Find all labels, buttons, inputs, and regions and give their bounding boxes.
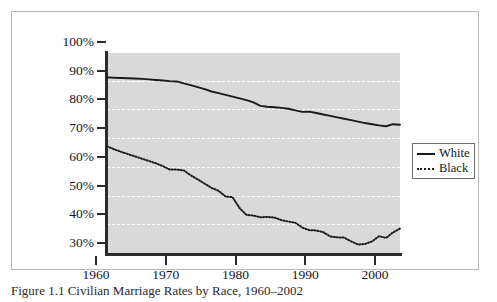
series-line-white [107,77,400,126]
legend-item-black: Black [417,161,468,176]
y-axis-tick [97,156,106,158]
y-axis-tick [97,213,106,215]
y-axis-tick-label: 50% [48,179,94,193]
x-axis-tick [374,256,376,265]
figure-frame: 100%90%80%70%60%50%40%30% 19601970198019… [11,11,479,270]
y-axis-tick [97,70,106,72]
y-axis-tick-label: 70% [48,121,94,135]
y-axis-tick [97,41,106,43]
x-axis-tick [165,256,167,265]
series-line-black [107,146,400,244]
series-layer [107,53,400,254]
x-axis-tick [304,256,306,265]
x-axis-tick [95,256,97,265]
y-axis-tick-label: 60% [48,150,94,164]
dotted-line-swatch-icon [417,164,435,174]
y-axis-tick [97,185,106,187]
y-axis-tick-labels: 100%90%80%70%60%50%40%30% [44,12,94,302]
y-axis-tick-label: 90% [48,64,94,78]
y-axis-tick-label: 100% [48,35,94,49]
y-axis-tick-label: 30% [48,236,94,250]
x-axis-tick-label: 1990 [275,268,335,282]
x-axis-tick-label: 1970 [136,268,196,282]
y-axis-tick [97,127,106,129]
x-axis-tick [235,256,237,265]
x-axis-tick-label: 2000 [345,268,405,282]
y-axis-tick-label: 80% [48,92,94,106]
y-axis-tick-label: 40% [48,207,94,221]
x-axis-tick-label: 1980 [206,268,266,282]
y-axis-tick [97,98,106,100]
legend-item-white: White [417,146,470,161]
y-axis-tick [97,242,106,244]
legend-label-white: White [439,147,470,160]
legend: White Black [412,143,475,179]
legend-label-black: Black [439,162,468,175]
x-axis-tick-label: 1960 [66,268,126,282]
figure-caption: Figure 1.1 Civilian Marriage Rates by Ra… [11,283,481,299]
solid-line-swatch-icon [417,149,435,159]
